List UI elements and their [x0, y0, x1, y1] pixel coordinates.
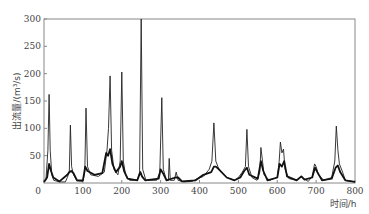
- x-tick-label: 700: [308, 186, 325, 196]
- series-line-smooth: [44, 149, 355, 182]
- y-axis-title: 出流量/(m³/s): [11, 72, 22, 129]
- x-tick-label: 800: [346, 186, 363, 196]
- y-tick-label: 100: [24, 123, 41, 133]
- y-tick-label: 300: [24, 14, 41, 24]
- series-group: [44, 19, 355, 182]
- x-tick-label: 0: [35, 186, 41, 196]
- x-tick-label: 600: [269, 186, 286, 196]
- x-tick-label: 400: [191, 186, 208, 196]
- x-tick-label: 200: [113, 186, 130, 196]
- plot-frame: [44, 19, 355, 183]
- y-tick-label: 150: [24, 96, 41, 106]
- x-axis: 0100200300400500600700800: [35, 180, 364, 196]
- y-tick-label: 250: [24, 41, 41, 51]
- x-tick-label: 500: [230, 186, 247, 196]
- x-tick-label: 100: [74, 186, 91, 196]
- x-tick-label: 300: [152, 186, 169, 196]
- y-tick-label: 50: [30, 151, 42, 161]
- flow-chart: 50100150200250300 0100200300400500600700…: [0, 0, 369, 214]
- y-tick-label: 200: [24, 69, 41, 79]
- x-axis-title: 时间/h: [330, 198, 357, 209]
- series-line-sharp: [44, 19, 355, 182]
